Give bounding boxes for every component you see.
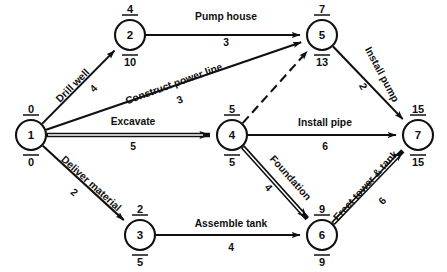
event-node-1[interactable]: 100 [16,103,46,169]
activity-name-pump-house: Pump house [195,11,257,22]
node-latest-time-1: 0 [28,156,34,168]
node-label-1: 1 [28,129,35,141]
node-label-5: 5 [319,29,326,41]
node-label-3: 3 [137,229,143,241]
activity-name-foundation: Foundation [268,153,314,202]
node-label-4: 4 [229,129,236,141]
edge-dummy [243,51,308,123]
event-node-3[interactable]: 325 [125,203,155,269]
activity-duration-construct-power-line: 3 [175,93,184,105]
event-node-7[interactable]: 71515 [403,103,433,169]
node-earliest-time-3: 2 [137,203,143,215]
node-latest-time-6: 9 [319,256,325,268]
activity-name-install-pipe: Install pipe [298,117,352,128]
node-earliest-time-7: 15 [412,103,424,115]
activity-name-deliver-material: Deliver material [59,154,123,214]
node-label-2: 2 [127,29,133,41]
node-latest-time-2: 10 [124,56,136,68]
activity-name-install-pump: Install pump [363,45,401,104]
node-earliest-time-6: 9 [319,203,325,215]
activity-duration-drill-well: 4 [88,82,100,94]
activity-duration-deliver-material: 2 [69,186,81,198]
activity-name-assemble-tank: Assemble tank [195,218,268,229]
node-latest-time-5: 13 [316,56,328,68]
activity-duration-excavate: 5 [130,141,136,152]
node-latest-time-3: 5 [137,256,143,268]
activity-duration-install-pump: 2 [357,81,370,91]
event-node-4[interactable]: 455 [217,103,247,169]
node-latest-time-7: 15 [412,156,424,168]
activity-name-drill-well: Drill well [54,67,92,105]
node-earliest-time-2: 4 [127,3,134,15]
activity-edge-dummy-4-5 [243,51,308,123]
activity-duration-install-pipe: 6 [322,141,328,152]
network-diagram: 1002410325455571369971515 Drill well4Con… [0,0,447,272]
node-latest-time-4: 5 [229,156,235,168]
network-diagram-canvas: 1002410325455571369971515 Drill well4Con… [0,0,447,272]
node-earliest-time-1: 0 [28,103,34,115]
activity-name-excavate: Excavate [111,116,156,127]
activity-duration-erect-tower-tank: 6 [376,195,388,207]
node-label-6: 6 [319,229,325,241]
event-node-2[interactable]: 2410 [115,3,145,69]
activity-duration-assemble-tank: 4 [228,242,234,253]
activity-duration-pump-house: 3 [223,37,229,48]
activity-name-construct-power-line: Construct power line [124,61,224,106]
event-node-6[interactable]: 699 [307,203,337,269]
node-earliest-time-4: 5 [229,103,235,115]
node-earliest-time-5: 7 [319,3,325,15]
activity-duration-foundation: 4 [263,182,275,194]
event-node-5[interactable]: 5713 [307,3,337,69]
node-label-7: 7 [415,129,421,141]
activity-name-erect-tower-tank: Erect tower & tank [331,148,400,223]
